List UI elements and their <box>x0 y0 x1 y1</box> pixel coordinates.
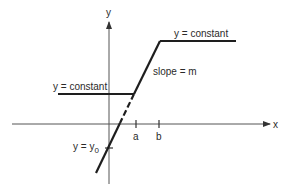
x-axis-label: x <box>273 119 278 130</box>
slope-label: slope = m <box>153 66 197 77</box>
intercept-label-prefix: y = y <box>73 141 94 152</box>
intercept-label: y = y0 <box>73 141 99 155</box>
upper-constant-label: y = constant <box>174 28 228 39</box>
tick-b-label: b <box>156 131 162 142</box>
piecewise-function-diagram: x y a b y = constant y = constant slope … <box>0 0 286 193</box>
tick-a-label: a <box>133 131 139 142</box>
lower-constant-label: y = constant <box>53 81 107 92</box>
intercept-label-subscript: 0 <box>94 146 99 155</box>
y-axis-label: y <box>106 7 111 18</box>
extension-line <box>96 123 120 173</box>
dashed-extrapolation-line <box>120 94 134 123</box>
